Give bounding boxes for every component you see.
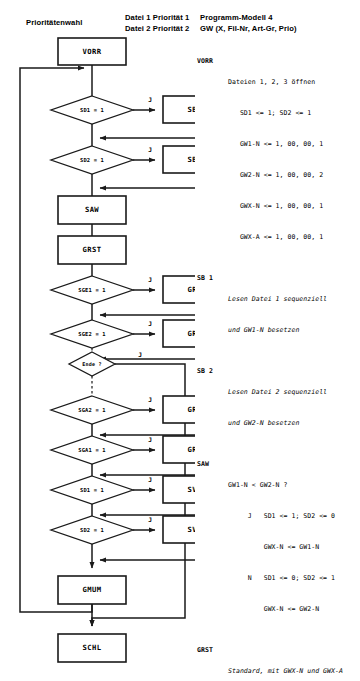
diagram-page: Prioritätenwahl Datei 1 Priorität 1 Date… [0,0,360,681]
branch-label-j-sd2b: J [148,516,152,523]
node-gmum: GMUM [83,585,102,594]
node-saw: SAW [85,205,99,214]
node-gra1: GRA1 [188,445,195,454]
decision-sd1: SD1 = 1 [80,107,104,113]
listing-line: und GW2-N besetzen [228,418,360,428]
listing-line: GWX-N <= 1, 00, 00, 1 [228,201,360,211]
listing-key-saw: SAW [197,459,227,469]
branch-label-j-sga1: J [148,436,152,443]
listing-body-sb1: Lesen Datei 1 sequenziell und GW1-N bese… [228,273,360,356]
listing-line: GWX-A <= 1, 00, 00, 1 [228,232,360,242]
listing-line: GW2-N <= 1, 00, 00, 2 [228,170,360,180]
node-sb2: SB 2 [188,155,195,164]
listing-body-grst: Standard, mit GWX-N und GWX-A als Eingan… [228,645,360,681]
branch-label-j-sge1: J [148,276,152,283]
listing-line: GW1-N <= 1, 00, 00, 1 [228,139,360,149]
listing-key-vorr: VORR [197,56,227,66]
branch-label-j-sd1b: J [148,476,152,483]
node-gra2: GRA2 [188,405,195,414]
listing-key-sb1: SB 1 [197,273,227,283]
listing-key-grst: GRST [197,645,227,655]
listing-line: Dateien 1, 2, 3 öffnen [228,77,360,87]
listing-line: und GW1-N besetzen [228,325,360,335]
decision-sd1b: SD1 = 1 [80,487,104,493]
node-gre2: GRE2 [188,329,195,338]
spacer [197,263,360,273]
spacer [197,356,360,366]
listing-line: Standard, mit GWX-N und GWX-A [228,666,360,676]
node-sv1: SV 1 [188,485,195,494]
branch-label-j-ende: J [138,351,142,358]
spacer [197,449,360,459]
decision-sge1: SGE1 = 1 [78,287,106,293]
program-listing: VORR Dateien 1, 2, 3 öffnen SD1 <= 1; SD… [197,56,360,681]
decision-sga1: SGA1 = 1 [78,447,106,453]
header-gw-signature: GW (X, Fil-Nr, Art-Gr, Prio) [200,24,297,33]
listing-body-saw: GW1-N < GW2-N ? J SD1 <= 1; SD2 <= 0 GWX… [228,459,360,635]
header-programm-modell: Programm-Modell 4 [200,13,273,22]
listing-entry-sb2: SB 2 Lesen Datei 2 sequenziell und GW2-N… [197,366,360,449]
listing-line: N SD1 <= 0; SD2 <= 1 [228,573,360,583]
listing-entry-sb1: SB 1 Lesen Datei 1 sequenziell und GW1-N… [197,273,360,356]
node-sv2: SV 2 [188,525,195,534]
listing-line: GW1-N < GW2-N ? [228,480,360,490]
node-grst: GRST [83,245,102,254]
branch-label-j-sd1: J [148,96,152,103]
node-vorr: VORR [83,47,102,56]
listing-key-sb2: SB 2 [197,366,227,376]
flowchart: VORR SD1 = 1 J SB 1 SD2 = 1 J SB 2 SAW G… [0,0,195,681]
listing-body-sb2: Lesen Datei 2 sequenziell und GW2-N bese… [228,366,360,449]
listing-line: GWX-N <= GW1-N [228,542,360,552]
listing-line: SD1 <= 1; SD2 <= 1 [228,108,360,118]
decision-sd2b: SD2 = 1 [80,527,104,533]
spacer [197,635,360,645]
decision-ende: Ende ? [82,361,101,367]
decision-sge2: SGE2 = 1 [78,331,106,337]
decision-sd2: SD2 = 1 [80,157,104,163]
listing-entry-grst: GRST Standard, mit GWX-N und GWX-A als E… [197,645,360,681]
listing-body-vorr: Dateien 1, 2, 3 öffnen SD1 <= 1; SD2 <= … [228,56,360,263]
decision-sga2: SGA2 = 1 [78,407,106,413]
listing-line: GWX-N <= GW2-N [228,604,360,614]
listing-entry-saw: SAW GW1-N < GW2-N ? J SD1 <= 1; SD2 <= 0… [197,459,360,635]
branch-label-j-sd2: J [148,146,152,153]
listing-line: Lesen Datei 2 sequenziell [228,387,360,397]
listing-entry-vorr: VORR Dateien 1, 2, 3 öffnen SD1 <= 1; SD… [197,56,360,263]
listing-line: Lesen Datei 1 sequenziell [228,294,360,304]
branch-label-j-sga2: J [148,396,152,403]
node-sb1: SB 1 [188,105,195,114]
branch-label-j-sge2: J [148,320,152,327]
node-schl: SCHL [83,643,102,652]
node-gre1: GRE1 [188,285,195,294]
listing-line: J SD1 <= 1; SD2 <= 0 [228,511,360,521]
